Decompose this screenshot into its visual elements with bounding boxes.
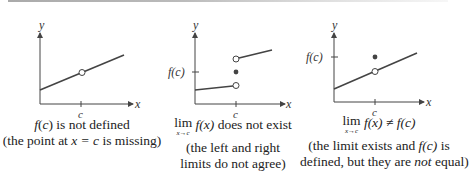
lim-word: lim <box>342 113 360 128</box>
caption-text: does not exist <box>214 117 292 132</box>
caption-3-line-2: (the limit exists and f(c) is <box>300 138 458 154</box>
right-branch <box>239 50 272 58</box>
caption-text: (the limit exists and <box>308 138 418 153</box>
caption-1: f(c) is not defined (the point at x = c … <box>2 117 162 149</box>
lim-subscript: x→c <box>342 127 360 135</box>
open-point-hole <box>372 69 378 75</box>
limit-notation: limx→c <box>174 117 192 137</box>
x-axis-label: x <box>134 97 141 111</box>
open-point-hole <box>79 70 85 76</box>
left-branch <box>195 86 233 90</box>
open-point-left-limit <box>233 83 239 89</box>
caption-1-line-1: f(c) is not defined <box>2 117 162 133</box>
lim-word: lim <box>174 115 192 130</box>
caption-2-line-2: (the left and right <box>160 140 306 156</box>
caption-text: (the point at <box>3 133 72 148</box>
caption-3: limx→c f(x) ≠ f(c) (the limit exists and… <box>300 115 458 170</box>
tick-label-fc: f(c) <box>168 65 185 79</box>
caption-3-line-3: defined, but they are not equal) <box>300 154 458 170</box>
filled-point-fc <box>234 70 239 75</box>
filled-point-fc <box>373 55 378 60</box>
caption-text: is <box>437 138 449 153</box>
tick-label-fc: f(c) <box>306 50 323 64</box>
caption-1-line-2: (the point at x = c is missing) <box>2 133 162 149</box>
graph-1: y x c <box>38 18 141 120</box>
open-point-right-limit <box>233 56 239 62</box>
y-axis-label: y <box>38 18 45 32</box>
math-x-equals-c: x = c <box>71 133 99 148</box>
limit-notation: limx→c <box>342 115 360 135</box>
lim-expression: f(x) <box>196 117 215 132</box>
caption-text: defined, but they are <box>300 154 414 169</box>
lim-subscript: x→c <box>174 129 192 137</box>
y-axis-label: y <box>192 18 199 32</box>
graph-2: y x c f(c) <box>168 18 292 120</box>
lim-expression: f(x) ≠ f(c) <box>364 115 416 130</box>
graph-3: y x c f(c) <box>306 18 432 118</box>
x-axis-label: x <box>425 95 432 109</box>
math-fc: f(c) <box>419 138 438 153</box>
x-axis-label: x <box>285 97 292 111</box>
caption-text: equal) <box>432 154 469 169</box>
emphasis-not: not <box>414 154 431 169</box>
y-axis-label: y <box>331 18 338 32</box>
caption-2: limx→c f(x) does not exist (the left and… <box>160 117 306 172</box>
caption-2-line-3: limits do not agree) <box>160 156 306 172</box>
caption-3-line-1: limx→c f(x) ≠ f(c) <box>300 115 458 135</box>
caption-text: is missing) <box>99 133 161 148</box>
caption-2-line-1: limx→c f(x) does not exist <box>160 117 306 137</box>
